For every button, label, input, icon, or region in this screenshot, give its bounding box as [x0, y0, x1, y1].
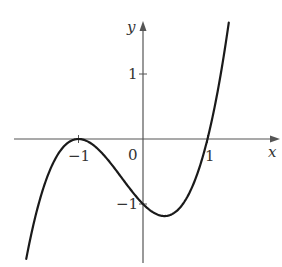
axes: [14, 21, 280, 263]
y-axis-arrow-icon: [140, 21, 147, 31]
function-curve: [26, 23, 229, 259]
x-axis-arrow-icon: [270, 136, 280, 143]
y-axis-label: y: [126, 18, 136, 36]
x-tick-label-1: 1: [205, 147, 215, 165]
cubic-graph-figure: x y 0 −1 1 1 −1: [0, 0, 282, 267]
x-tick-label-neg1: −1: [68, 147, 90, 165]
origin-label: 0: [128, 146, 138, 164]
y-tick-label-neg1: −1: [116, 195, 138, 213]
plot-area: x y 0 −1 1 1 −1: [0, 0, 282, 267]
y-tick-label-1: 1: [128, 65, 138, 83]
x-axis-label: x: [268, 143, 277, 161]
